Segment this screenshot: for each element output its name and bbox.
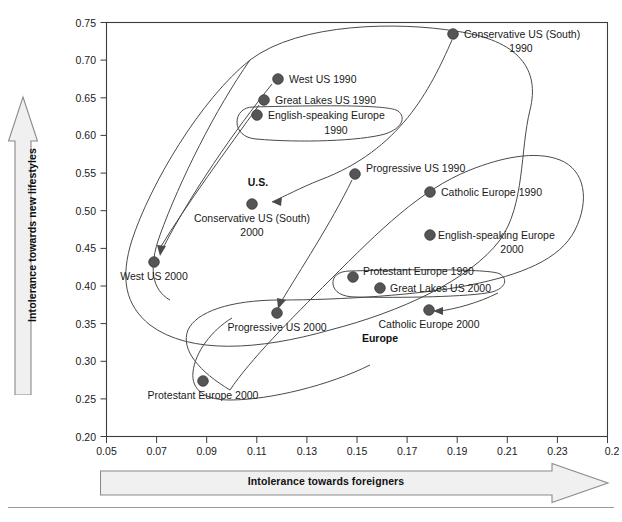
data-point[interactable] [252,110,263,121]
trend-arrow-progressive-us [281,180,352,302]
y-tick-label: 0.40 [76,280,97,292]
annotation-europe: Europe [362,332,398,344]
data-point-label: Catholic Europe 1990 [441,186,542,198]
data-point-label: Conservative US (South) [194,212,310,224]
data-point[interactable] [350,169,361,180]
y-tick-label: 0.35 [76,318,97,330]
y-tick-label: 0.50 [76,205,97,217]
y-tick-label: 0.60 [76,129,97,141]
data-point[interactable] [149,257,160,268]
arrowhead [157,245,166,256]
data-point-label: Protestant Europe 2000 [148,389,259,401]
data-point-label: Protestant Europe 1990 [363,265,474,277]
data-point[interactable] [198,376,209,387]
y-tick-label: 0.45 [76,242,97,254]
data-point-label-line2: 2000 [240,226,264,238]
y-axis-tick-labels: 0.75 0.70 0.65 0.60 0.55 0.50 0.45 0.40 … [76,17,97,443]
data-point-label-line2: 1990 [509,42,533,54]
x-tick-label: 0.05 [96,445,117,457]
x-axis-tick-labels: 0.05 0.07 0.09 0.11 0.13 0.15 0.17 0.19 … [96,445,619,457]
x-tick-label: 0.19 [447,445,468,457]
x-tick-label: 0.11 [247,445,267,457]
data-point[interactable] [425,230,436,241]
x-axis-ticks [107,437,608,444]
x-tick-label: 0.17 [397,445,418,457]
x-tick-label: 0.23 [547,445,568,457]
data-point[interactable] [424,305,435,316]
x-tick-label: 0.13 [297,445,318,457]
data-point[interactable] [425,187,436,198]
data-point[interactable] [348,272,359,283]
y-tick-label: 0.75 [76,17,97,29]
data-point-label: Progressive US 1990 [366,162,465,174]
x-tick-label: 0.09 [196,445,217,457]
y-tick-label: 0.70 [76,54,97,66]
data-point-label: West US 1990 [289,73,357,85]
x-axis-label-banner: Intolerance towards foreigners [100,462,610,504]
data-point-label: West US 2000 [120,270,188,282]
data-point-label: Conservative US (South) [464,28,580,40]
y-tick-label: 0.55 [76,167,97,179]
data-point[interactable] [273,74,284,85]
data-point-label: English-speaking Europe [268,109,385,121]
y-axis-ticks [101,23,107,437]
x-tick-label: 0.21 [497,445,518,457]
data-points: Conservative US (South) 1990 West US 199… [120,28,580,401]
data-point-label: Great Lakes US 1990 [275,94,376,106]
data-point-label-line2: 2000 [500,243,524,255]
data-point[interactable] [375,283,386,294]
data-point[interactable] [272,308,283,319]
data-point-label-line2: 1990 [324,124,348,136]
y-tick-label: 0.25 [76,393,97,405]
x-tick-label: 0.2 [605,445,620,457]
data-point-label: Great Lakes US 2000 [390,282,491,294]
footer-rule [0,500,622,520]
data-point-label: English-speaking Europe [438,229,555,241]
data-point-label: Progressive US 2000 [227,321,326,333]
y-tick-label: 0.65 [76,92,97,104]
chart-figure: Intolerance towards new lifestyles Intol… [0,0,622,522]
hull-us-1990-lobe [153,60,250,300]
trend-arrow-conservative-us [272,40,452,202]
data-point-label: Catholic Europe 2000 [379,318,480,330]
y-tick-label: 0.30 [76,355,97,367]
data-point[interactable] [448,29,459,40]
scatter-plot: 0.75 0.70 0.65 0.60 0.55 0.50 0.45 0.40 … [0,0,622,462]
data-point[interactable] [247,199,258,210]
x-axis-label: Intolerance towards foreigners [100,475,552,487]
x-tick-label: 0.15 [347,445,368,457]
y-tick-label: 0.20 [76,431,97,443]
x-tick-label: 0.07 [146,445,167,457]
arrowhead [272,197,282,206]
data-point[interactable] [259,95,270,106]
annotation-us: U.S. [248,176,269,188]
